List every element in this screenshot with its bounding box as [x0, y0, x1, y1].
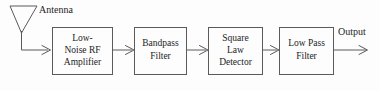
block-diagram: Low- Noise RF Amplifier Bandpass Filter … — [0, 0, 380, 91]
block-label-line: Square — [222, 33, 248, 43]
block-label-line: Bandpass — [142, 38, 179, 48]
block-label-line: Noise RF — [64, 45, 100, 55]
block-low-pass-filter[interactable]: Low Pass Filter — [280, 28, 334, 75]
wire-amplifier-to-bandpass — [113, 46, 135, 55]
output-label: Output — [338, 26, 366, 37]
wire-detector-to-lowpass — [263, 46, 280, 55]
block-label-line: Filter — [150, 51, 171, 61]
block-label-line: Low Pass — [288, 38, 325, 48]
block-label-line: Filter — [296, 51, 317, 61]
diagram-canvas: Low- Noise RF Amplifier Bandpass Filter … — [0, 0, 380, 91]
block-square-law-detector[interactable]: Square Law Detector — [209, 28, 263, 75]
block-label-line: Low- — [72, 33, 93, 43]
antenna-icon — [10, 6, 37, 50]
block-label-line: Amplifier — [64, 57, 102, 67]
wire-bandpass-to-detector — [187, 46, 209, 55]
block-low-noise-rf-amplifier[interactable]: Low- Noise RF Amplifier — [53, 28, 113, 75]
antenna-label: Antenna — [39, 4, 73, 15]
block-bandpass-filter[interactable]: Bandpass Filter — [135, 28, 187, 75]
wire-output — [334, 46, 368, 55]
wire-antenna-to-amplifier — [22, 46, 51, 55]
block-label-line: Detector — [219, 57, 253, 67]
block-label-line: Law — [227, 45, 244, 55]
